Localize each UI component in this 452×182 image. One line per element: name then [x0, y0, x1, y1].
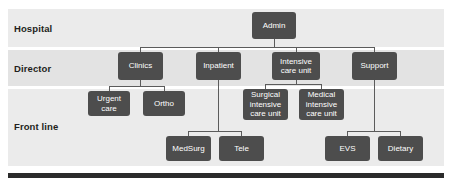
org-node-admin[interactable]: Admin: [252, 12, 296, 39]
connector-support-bus: [347, 131, 401, 132]
connector-admin-bus: [140, 47, 375, 48]
swimlane-label-front-line: Front line: [14, 121, 58, 132]
org-node-support[interactable]: Support: [352, 52, 397, 80]
swimlane-band-hospital: [8, 9, 444, 47]
connector-clinics-bus: [109, 86, 165, 87]
org-node-urgent-care[interactable]: Urgent care: [88, 91, 130, 116]
org-node-sicu[interactable]: Surgical intensive care unit: [243, 89, 288, 120]
connector-icu-bus: [265, 84, 322, 85]
bottom-accent-bar: [8, 173, 444, 178]
org-node-clinics[interactable]: Clinics: [118, 52, 163, 80]
swimlane-label-hospital: Hospital: [14, 23, 52, 34]
org-node-icu[interactable]: Intensive care unit: [272, 52, 320, 80]
org-node-dietary[interactable]: Dietary: [378, 136, 423, 161]
connector-support-stem: [374, 80, 375, 131]
swimlane-label-director: Director: [14, 63, 51, 74]
org-node-evs[interactable]: EVS: [325, 136, 370, 161]
org-node-inpatient[interactable]: Inpatient: [196, 52, 241, 80]
connector-inpatient-bus: [188, 131, 242, 132]
org-node-micu[interactable]: Medical intensive care unit: [299, 89, 344, 120]
org-node-medsurg[interactable]: MedSurg: [166, 136, 211, 161]
org-node-tele[interactable]: Tele: [219, 136, 264, 161]
org-node-ortho[interactable]: Ortho: [143, 91, 185, 116]
connector-admin-stem: [274, 39, 275, 47]
connector-inpatient-stem: [218, 80, 219, 131]
org-chart-diagram: HospitalDirectorFront line AdminClinicsI…: [0, 0, 452, 182]
